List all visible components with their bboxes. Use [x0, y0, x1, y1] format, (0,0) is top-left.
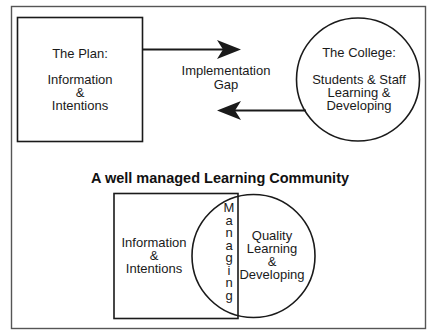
- college-heading: The College:: [322, 45, 396, 60]
- gap-label-line: Implementation: [182, 63, 271, 78]
- plan-box-line: Intentions: [52, 98, 109, 113]
- college-line: Developing: [326, 98, 391, 113]
- managing-letter: g: [225, 288, 232, 303]
- plan-box-heading: The Plan:: [52, 46, 108, 61]
- diagram-title: A well managed Learning Community: [91, 170, 349, 186]
- bottom-circle-line: Developing: [239, 267, 304, 282]
- bottom-box-line: Intentions: [126, 261, 183, 276]
- diagram-canvas: The Plan: Information & Intentions Imple…: [0, 0, 434, 335]
- gap-label-line: Gap: [214, 77, 239, 92]
